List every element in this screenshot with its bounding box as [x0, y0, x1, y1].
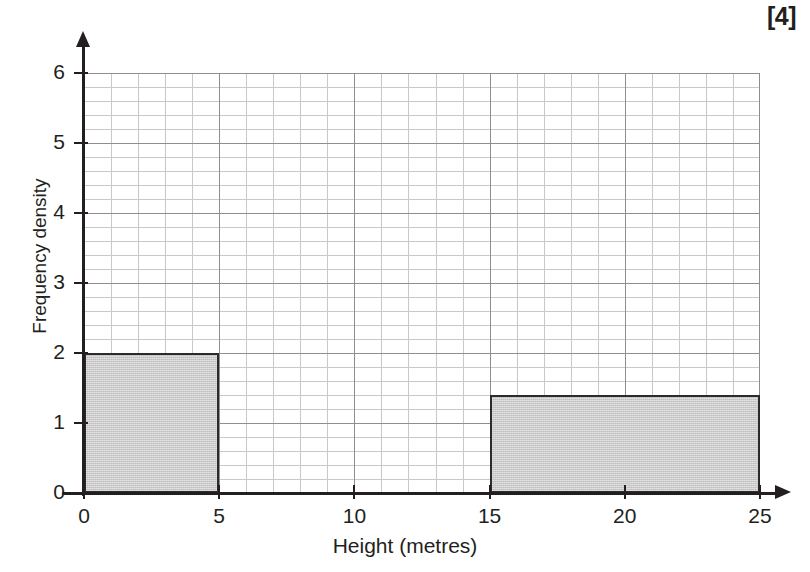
x-axis-tick-label: 15: [460, 504, 520, 528]
histogram-figure: 0123456 0510152025 Frequency density Hei…: [0, 0, 810, 572]
x-axis-tick-label: 0: [54, 504, 114, 528]
y-axis-tick-label: 0: [25, 480, 65, 504]
y-axis-tick: [74, 142, 88, 144]
x-axis-tick-label: 25: [730, 504, 790, 528]
x-axis-tick-label: 10: [324, 504, 384, 528]
x-axis-arrow-icon: [775, 485, 791, 499]
x-axis-tick: [489, 485, 491, 499]
x-axis-tick-label: 5: [189, 504, 249, 528]
y-axis-title: Frequency density: [29, 46, 51, 466]
y-axis-tick: [74, 422, 88, 424]
x-axis-tick: [624, 485, 626, 499]
x-axis-line: [62, 492, 778, 495]
y-axis-tick: [74, 72, 88, 74]
bar-texture: [492, 397, 758, 491]
plot-area: [84, 73, 760, 493]
x-axis-title: Height (metres): [0, 534, 810, 558]
x-axis-tick: [353, 485, 355, 499]
x-axis-tick: [759, 485, 761, 499]
x-axis-tick: [83, 485, 85, 499]
bar-texture: [86, 355, 217, 491]
y-axis-tick: [74, 212, 88, 214]
x-axis-tick: [218, 485, 220, 499]
y-axis-tick: [74, 282, 88, 284]
y-axis-arrow-icon: [76, 31, 90, 47]
x-axis-tick-label: 20: [595, 504, 655, 528]
y-axis-tick: [74, 352, 88, 354]
histogram-bar: [490, 395, 760, 493]
histogram-bar: [84, 353, 219, 493]
y-axis-line: [82, 44, 85, 496]
y-axis-tick: [74, 492, 88, 494]
